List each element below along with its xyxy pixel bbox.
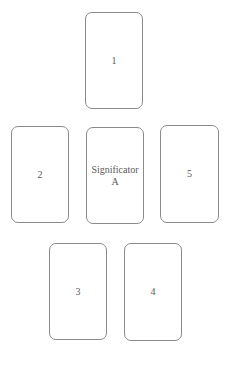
card-position-2[interactable]: 2: [11, 126, 69, 223]
card-label: 1: [112, 55, 117, 67]
card-significator[interactable]: Significator A: [86, 127, 144, 224]
card-position-4[interactable]: 4: [124, 243, 182, 341]
card-label: 2: [38, 169, 43, 181]
card-position-5[interactable]: 5: [160, 125, 219, 223]
card-label: 5: [187, 168, 192, 180]
card-position-3[interactable]: 3: [49, 243, 107, 340]
card-label: Significator A: [91, 164, 138, 188]
card-label: 4: [151, 286, 156, 298]
card-label: 3: [76, 286, 81, 298]
card-position-1[interactable]: 1: [85, 12, 143, 109]
